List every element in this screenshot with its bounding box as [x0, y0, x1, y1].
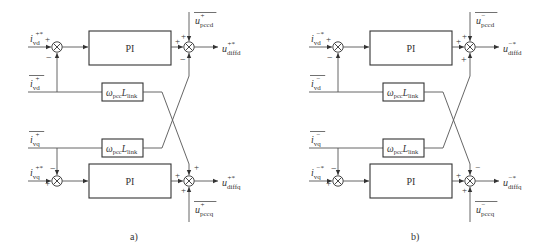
- sign-right-bottom-ff: +: [181, 185, 186, 195]
- svg-text:−: −: [482, 12, 486, 20]
- panel-caption: b): [411, 231, 419, 243]
- coupling-block-top: ωpccLlink: [383, 83, 424, 101]
- sign-left-top-ref: +: [45, 34, 50, 44]
- label-id-fb: ivd−: [310, 75, 325, 92]
- label-uq-ff: upccq+: [194, 201, 216, 218]
- coupling-block-top: ωpccLlink: [102, 83, 143, 101]
- svg-text:+*: +*: [228, 174, 236, 182]
- label-ud-out: udiffd−*: [503, 40, 522, 57]
- cross-wire-d-to-q: [424, 92, 470, 175]
- label-iq-fb: ivq−: [310, 131, 325, 148]
- svg-text:−*: −*: [509, 40, 517, 48]
- sign-right-bottom-pi: +: [175, 170, 180, 180]
- label-iq-ref: ivq+*: [30, 164, 43, 181]
- sign-left-bottom-fb: −: [50, 163, 56, 174]
- sign-right-bottom-cross: +: [194, 162, 199, 172]
- sign-left-top-fb: −: [46, 52, 52, 63]
- sum-left-bottom: [52, 176, 62, 186]
- sign-left-bottom-ref: +: [45, 178, 50, 188]
- svg-text:+: +: [36, 131, 40, 139]
- panel-caption: a): [130, 231, 138, 243]
- svg-text:−*: −*: [509, 174, 517, 182]
- label-uq-out: udiffq−*: [503, 174, 522, 191]
- sign-right-top-ff: +: [462, 31, 467, 41]
- svg-text:PI: PI: [126, 176, 135, 187]
- cross-wire-q-to-d: [143, 53, 189, 148]
- sum-left-top: [52, 42, 62, 52]
- sign-right-bottom-pi: +: [456, 170, 461, 180]
- sign-right-top-ff: +: [181, 31, 186, 41]
- svg-text:−*: −*: [317, 30, 325, 38]
- label-uq-out: udiffq+*: [222, 174, 241, 191]
- svg-text:−: −: [482, 201, 486, 209]
- svg-text:+: +: [201, 201, 205, 209]
- sign-left-bottom-fb: −: [331, 163, 337, 174]
- pi-block-top: PI: [89, 31, 171, 65]
- sign-left-top-fb: −: [327, 52, 333, 63]
- sum-right-top: [465, 42, 475, 52]
- sign-right-top-pi: +: [456, 36, 461, 46]
- cross-wire-d-to-q: [143, 92, 189, 175]
- sign-left-bottom-ref: +: [326, 178, 331, 188]
- sum-right-top: [184, 42, 194, 52]
- coupling-block-bottom: ωpccLlink: [383, 139, 424, 157]
- label-iq-ref: ivq−*: [311, 164, 324, 181]
- svg-text:PI: PI: [407, 176, 416, 187]
- sum-left-top: [333, 42, 343, 52]
- svg-text:+*: +*: [36, 164, 44, 172]
- panel-a: PIωpccLlinkωpccLlinkPIivd+*ivd+ivq+ivq+*…: [28, 12, 241, 243]
- svg-text:+*: +*: [36, 30, 44, 38]
- sum-left-bottom: [333, 176, 343, 186]
- svg-text:+*: +*: [228, 40, 236, 48]
- label-ud-ff: upccd+: [194, 12, 216, 29]
- svg-text:−: −: [317, 131, 321, 139]
- panel-b: PIωpccLlinkωpccLlinkPIivd−*ivd−ivq−ivq−*…: [309, 12, 522, 243]
- sign-right-bottom-ff: +: [462, 185, 467, 195]
- label-ud-out: udiffd+*: [222, 40, 241, 57]
- pi-block-bottom: PI: [370, 164, 452, 198]
- svg-text:−*: −*: [317, 164, 325, 172]
- label-ud-ff: upccd−: [475, 12, 497, 29]
- diagram-canvas: PIωpccLlinkωpccLlinkPIivd+*ivd+ivq+ivq+*…: [0, 0, 549, 252]
- pi-block-top: PI: [370, 31, 452, 65]
- svg-text:+: +: [201, 12, 205, 20]
- cross-wire-q-to-d: [424, 53, 470, 148]
- sign-right-top-pi: +: [175, 36, 180, 46]
- label-id-fb: ivd+: [29, 75, 44, 92]
- pi-block-bottom: PI: [89, 164, 171, 198]
- sign-left-top-ref: +: [326, 34, 331, 44]
- label-id-ref: ivd−*: [311, 30, 324, 47]
- sign-right-top-cross: −: [180, 54, 186, 65]
- label-id-ref: ivd+*: [30, 30, 43, 47]
- label-uq-ff: upccq−: [475, 201, 497, 218]
- svg-text:PI: PI: [126, 43, 135, 54]
- label-iq-fb: ivq+: [29, 131, 44, 148]
- svg-text:PI: PI: [407, 43, 416, 54]
- sign-right-top-cross: +: [461, 54, 467, 65]
- sign-right-bottom-cross: −: [475, 162, 480, 172]
- svg-text:−: −: [317, 75, 321, 83]
- coupling-block-bottom: ωpccLlink: [102, 139, 143, 157]
- svg-text:+: +: [36, 75, 40, 83]
